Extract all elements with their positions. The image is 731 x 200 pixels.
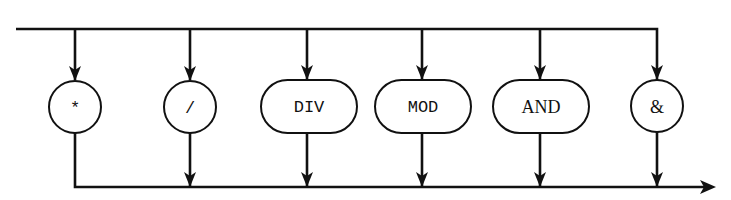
node-label-slash: / <box>185 99 195 118</box>
branch-ampersand: & <box>631 65 683 187</box>
syntax-diagram: * / DIV MOD AND & <box>0 0 731 200</box>
branch-div: DIV <box>261 29 357 187</box>
branch-multiply: * <box>49 29 101 133</box>
node-label-mod: MOD <box>408 98 439 117</box>
entry-rail <box>16 29 657 80</box>
node-label-ampersand: & <box>650 97 664 117</box>
branch-and: AND <box>493 29 589 187</box>
node-label-multiply: * <box>70 99 80 118</box>
node-label-div: DIV <box>294 98 325 117</box>
branch-mod: MOD <box>375 29 471 187</box>
node-label-and: AND <box>522 97 561 117</box>
exit-rail <box>75 133 708 187</box>
branch-slash: / <box>164 29 216 187</box>
